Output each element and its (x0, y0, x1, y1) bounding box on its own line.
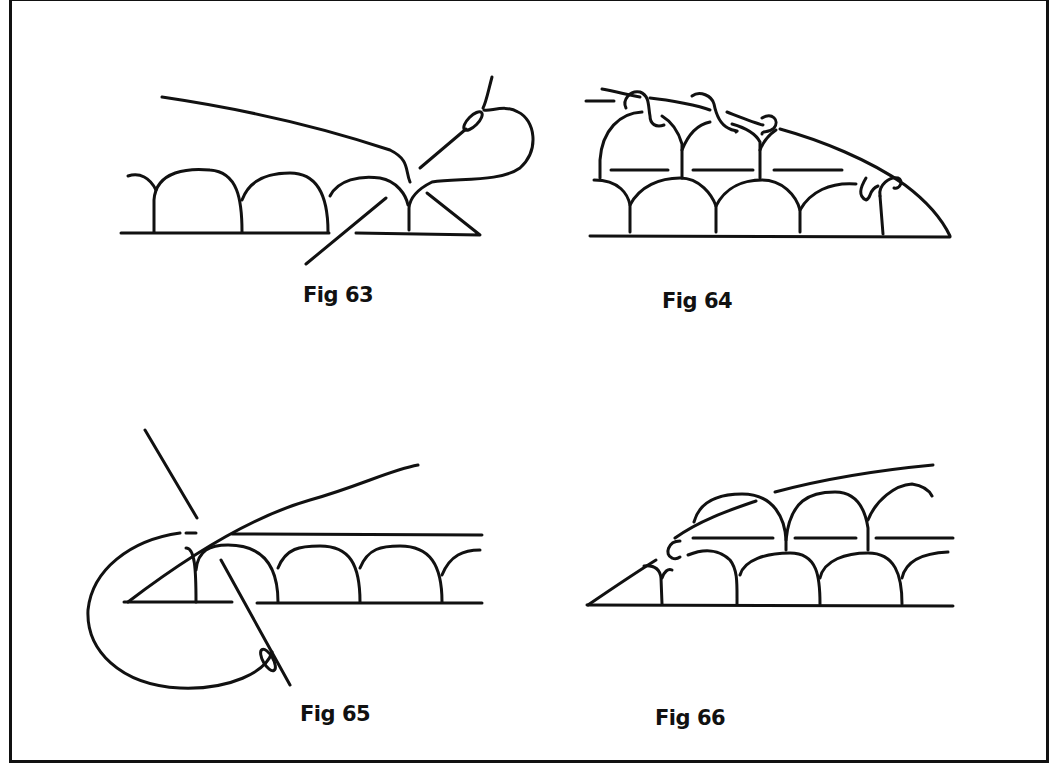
figure-63-drawing (121, 77, 533, 264)
figure-63-caption: Fig 63 (303, 283, 373, 307)
illustrations (0, 0, 1061, 770)
figure-65-caption: Fig 65 (300, 702, 370, 726)
figure-66-drawing (587, 465, 953, 606)
figure-64-drawing (586, 89, 950, 237)
figure-66-caption: Fig 66 (655, 706, 725, 730)
figure-64-caption: Fig 64 (662, 289, 732, 313)
figure-65-drawing (88, 430, 482, 688)
